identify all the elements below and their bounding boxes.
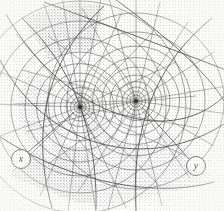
axis-label-y-text: y <box>194 161 198 171</box>
axis-label-x: x <box>11 149 31 169</box>
axis-label-y: y <box>186 156 206 176</box>
right-focus-point <box>134 99 138 103</box>
left-focus-point <box>78 105 82 109</box>
bipolar-field-diagram <box>0 0 224 211</box>
diagram-canvas: x y <box>0 0 224 211</box>
axis-label-x-text: x <box>19 154 23 164</box>
